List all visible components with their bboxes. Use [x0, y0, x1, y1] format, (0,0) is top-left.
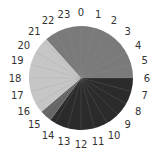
hour-label: 12: [75, 139, 88, 150]
hour-label: 6: [144, 73, 150, 84]
hour-label: 22: [42, 15, 55, 26]
hour-label: 21: [28, 26, 41, 37]
hour-label: 10: [108, 130, 121, 141]
hour-label: 15: [28, 119, 41, 130]
hour-label: 3: [124, 26, 130, 37]
hour-label: 18: [9, 73, 22, 84]
hour-label: 4: [135, 40, 141, 51]
hour-label: 14: [42, 130, 55, 141]
hour-label: 23: [58, 9, 71, 20]
hour-label: 20: [17, 40, 30, 51]
hour-label: 16: [17, 106, 30, 117]
hour-label: 0: [78, 7, 84, 18]
hour-label: 2: [111, 15, 117, 26]
hour-label: 19: [11, 55, 24, 66]
hour-label: 13: [58, 136, 71, 147]
hour-label: 11: [92, 136, 105, 147]
hour-label: 5: [142, 55, 148, 66]
hour-label: 7: [142, 90, 148, 101]
hour-label: 9: [124, 119, 130, 130]
hour-label: 1: [95, 9, 101, 20]
hour-label: 8: [135, 106, 141, 117]
clock-pie-chart: 01234567891011121314151617181920212223: [0, 0, 155, 156]
hour-label: 17: [11, 90, 24, 101]
hour-grid: [29, 26, 133, 130]
